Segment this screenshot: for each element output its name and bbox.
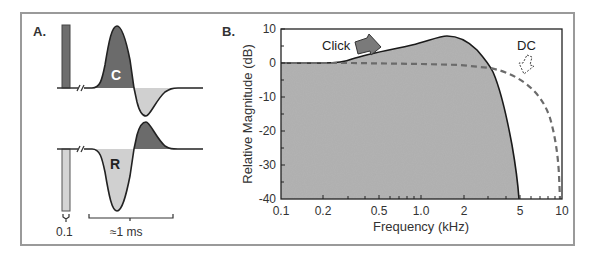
duration-bracket bbox=[89, 214, 173, 221]
axis-break-mark bbox=[81, 146, 84, 152]
x-tick-labels: 0.1 0.2 0.5 1.0 2 5 10 bbox=[273, 204, 569, 218]
y-tick-label: -30 bbox=[259, 158, 277, 172]
rarefaction-pulse bbox=[62, 149, 70, 211]
x-tick-label: 0.5 bbox=[371, 204, 388, 218]
x-tick-label: 0.1 bbox=[273, 204, 290, 218]
x-tick-label: 2 bbox=[461, 204, 468, 218]
y-axis-label: Relative Magnitude (dB) bbox=[240, 44, 255, 183]
dc-annotation-label: DC bbox=[517, 38, 536, 53]
click-annotation-label: Click bbox=[322, 38, 351, 53]
panel-b: B. 10 0 -10 -20 -30 bbox=[222, 22, 569, 234]
duration-label: ≈1 ms bbox=[110, 225, 143, 239]
rarefaction-label: R bbox=[110, 156, 120, 172]
y-tick-label: 10 bbox=[263, 22, 277, 36]
y-tick-label: -10 bbox=[259, 90, 277, 104]
x-tick-label: 1.0 bbox=[413, 204, 430, 218]
condensation-label: C bbox=[111, 67, 121, 83]
y-tick-label: 0 bbox=[269, 56, 276, 70]
pulse-width-label: 0.1 bbox=[56, 225, 73, 239]
dc-arrow-icon bbox=[519, 55, 534, 74]
click-spectrum-fill bbox=[281, 36, 519, 199]
axis-break-mark bbox=[81, 85, 84, 91]
panel-a-label: A. bbox=[33, 24, 46, 39]
y-tick-labels: 10 0 -10 -20 -30 -40 bbox=[259, 22, 277, 206]
x-tick-label: 10 bbox=[555, 204, 569, 218]
x-tick-label: 5 bbox=[517, 204, 524, 218]
condensation-pulse bbox=[62, 25, 70, 88]
x-axis-label: Frequency (kHz) bbox=[373, 219, 469, 234]
panel-a: A. C R 0.1 ≈1 ms bbox=[33, 24, 203, 239]
panel-b-label: B. bbox=[222, 24, 235, 39]
pulse-width-bracket bbox=[63, 214, 69, 222]
figure: A. C R 0.1 ≈1 ms B. bbox=[0, 0, 596, 257]
x-tick-label: 0.2 bbox=[315, 204, 332, 218]
y-tick-label: -20 bbox=[259, 124, 277, 138]
